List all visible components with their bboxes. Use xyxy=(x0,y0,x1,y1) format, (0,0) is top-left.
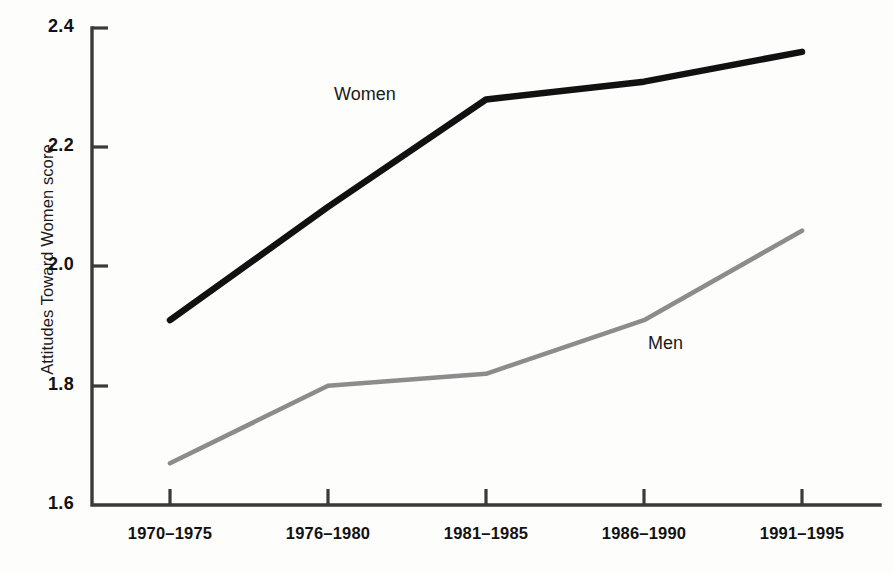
chart-container: Attitudes Toward Women score 2.4 2.2 2.0… xyxy=(0,0,893,573)
series-line-men xyxy=(170,231,802,464)
x-tick-label-3: 1986–1990 xyxy=(564,524,724,543)
plot-area xyxy=(0,0,893,573)
x-tick-label-4: 1991–1995 xyxy=(722,524,882,543)
x-tick-label-2: 1981–1985 xyxy=(406,524,566,543)
x-tick-label-0: 1970–1975 xyxy=(90,524,250,543)
series-label-women: Women xyxy=(334,84,396,105)
x-tick-label-1: 1976–1980 xyxy=(248,524,408,543)
series-line-women xyxy=(170,52,802,320)
series-label-men: Men xyxy=(648,333,683,354)
